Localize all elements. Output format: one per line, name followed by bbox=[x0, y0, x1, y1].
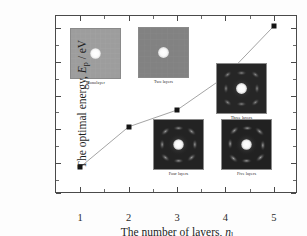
inset-three-layers: Three layers bbox=[216, 63, 267, 120]
x-axis-title: The number of layers, nl bbox=[56, 226, 298, 236]
diffraction-image-five-layers bbox=[221, 119, 272, 170]
xtick-label-1: 1 bbox=[70, 212, 90, 223]
plot-frame: 700 600 500 400 300 bbox=[55, 15, 297, 193]
inset-caption-five-layers: Five layers bbox=[221, 171, 272, 176]
x-axis-title-prefix: The number of layers, bbox=[121, 226, 225, 236]
inset-caption-four-layers: Four layers bbox=[153, 171, 204, 176]
figure-container: 700 600 500 400 300 bbox=[0, 0, 307, 236]
xtick-label-4: 4 bbox=[215, 212, 235, 223]
y-axis-title-subscript: p bbox=[81, 62, 90, 66]
diffraction-image-three-layers bbox=[216, 63, 267, 114]
inset-caption-two-layers: Two layers bbox=[138, 79, 189, 84]
x-axis-title-subscript: l bbox=[231, 231, 233, 236]
y-axis-title: The optimal energy, Ep / eV bbox=[76, 19, 90, 189]
inset-four-layers: Four layers bbox=[153, 119, 204, 176]
y-axis-title-prefix: The optimal energy, bbox=[76, 73, 88, 168]
inset-two-layers: Two layers bbox=[138, 27, 189, 84]
data-point-3 bbox=[175, 108, 180, 113]
xtick-label-5: 5 bbox=[264, 212, 284, 223]
y-axis-title-symbol: E bbox=[76, 66, 88, 73]
diffraction-image-four-layers bbox=[153, 119, 204, 170]
data-point-2 bbox=[126, 124, 131, 129]
data-point-5 bbox=[271, 24, 276, 29]
inset-five-layers: Five layers bbox=[221, 119, 272, 176]
xtick-label-3: 3 bbox=[167, 212, 187, 223]
diffraction-image-two-layers bbox=[138, 27, 189, 78]
y-axis-title-suffix: / eV bbox=[76, 40, 88, 62]
xtick-label-2: 2 bbox=[119, 212, 139, 223]
